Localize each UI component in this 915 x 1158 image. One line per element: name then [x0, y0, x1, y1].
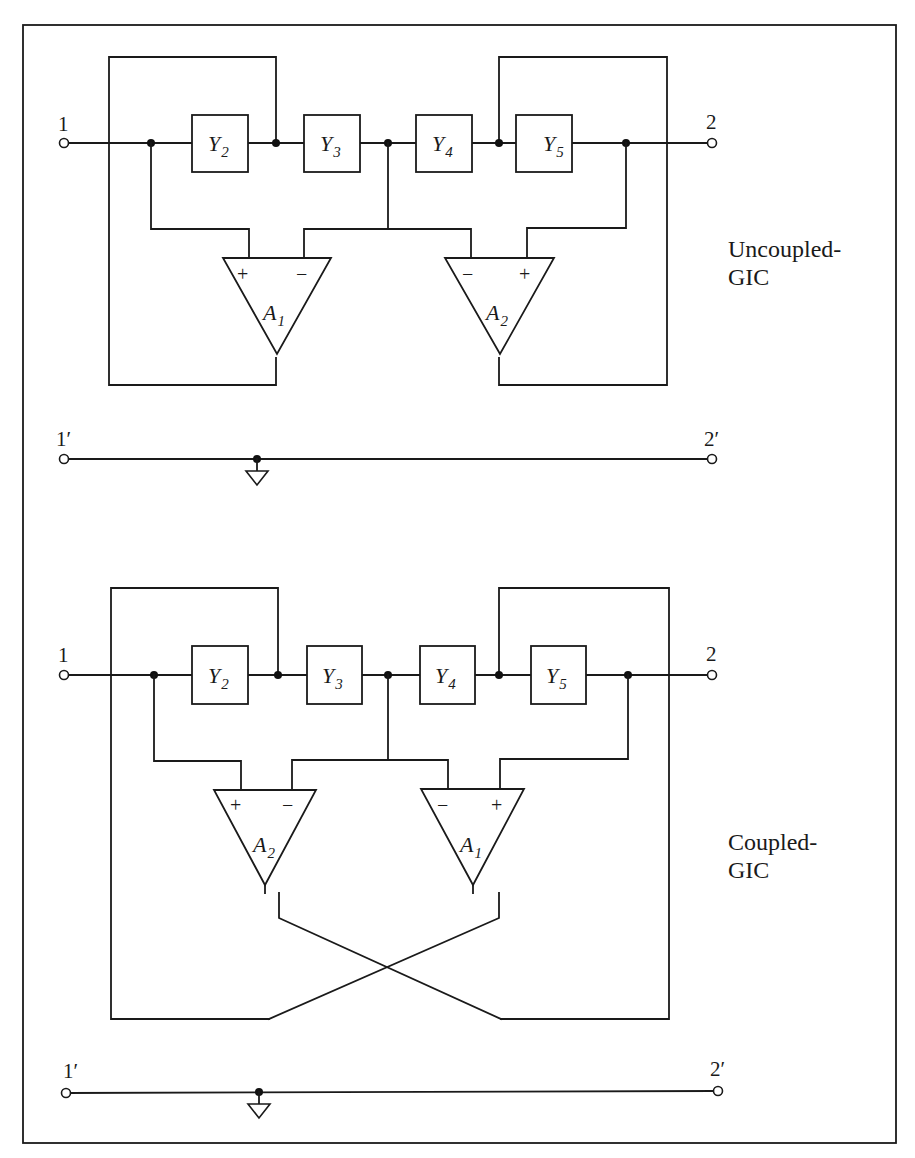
- terminal-1-prime-label: 1′: [63, 1059, 78, 1083]
- svg-text:+: +: [519, 263, 530, 285]
- uncoupled-gic-circuit: Y2 Y3 Y4 Y5 + − A: [56, 57, 847, 485]
- terminal-2-prime: [714, 1087, 723, 1096]
- admittance-y4: Y4: [420, 646, 475, 704]
- ground-icon: [246, 459, 268, 485]
- terminal-2-prime: [708, 455, 717, 464]
- op-amp-a1: + − A1: [223, 258, 331, 354]
- terminal-2-prime-label: 2′: [704, 427, 719, 451]
- admittance-y4: Y4: [416, 115, 472, 172]
- figure-border: [23, 25, 896, 1143]
- terminal-2-label: 2: [706, 110, 717, 134]
- coupled-gic-circuit: Y2 Y3 Y4 Y5 + − A2: [58, 588, 823, 1118]
- junction-dot: [272, 139, 280, 147]
- admittance-y2: Y2: [192, 115, 248, 172]
- terminal-1-prime-label: 1′: [56, 427, 71, 451]
- terminal-2: [708, 139, 717, 148]
- terminal-1: [60, 671, 69, 680]
- admittance-y3: Y3: [307, 646, 362, 704]
- cross-coupling-wire-a1: [269, 893, 499, 1019]
- svg-text:−: −: [437, 794, 448, 816]
- op-amp-a2: − + A2: [445, 258, 554, 354]
- gic-circuit-diagram: Y2 Y3 Y4 Y5 + − A: [0, 0, 915, 1158]
- svg-text:+: +: [230, 794, 241, 816]
- wire: [304, 229, 471, 258]
- terminal-2-prime-label: 2′: [710, 1057, 725, 1081]
- terminal-1-label: 1: [58, 643, 69, 667]
- terminal-1-prime: [60, 455, 69, 464]
- ground-reference-line: [68, 1091, 713, 1093]
- terminal-1-label: 1: [58, 112, 69, 136]
- uncoupled-gic-label: Uncoupled- GIC: [728, 236, 847, 290]
- terminal-1-prime: [62, 1089, 71, 1098]
- wire: [292, 760, 448, 790]
- admittance-y3: Y3: [304, 115, 360, 172]
- ground-icon: [248, 1092, 270, 1118]
- svg-text:+: +: [491, 794, 502, 816]
- terminal-2-label: 2: [706, 642, 717, 666]
- junction-dot: [495, 139, 503, 147]
- feedback-loop-left: [109, 57, 276, 385]
- admittance-y5: Y5: [531, 646, 586, 704]
- terminal-2: [708, 671, 717, 680]
- admittance-y2: Y2: [192, 646, 248, 704]
- junction-dot: [495, 671, 503, 679]
- svg-text:+: +: [237, 263, 248, 285]
- junction-dot: [274, 671, 282, 679]
- op-amp-a1: − + A1: [421, 789, 524, 885]
- svg-text:−: −: [462, 263, 473, 285]
- coupled-gic-label: Coupled- GIC: [728, 829, 823, 883]
- op-amp-a2: + − A2: [214, 790, 316, 885]
- admittance-y5: Y5: [516, 115, 572, 172]
- terminal-1: [60, 139, 69, 148]
- svg-text:−: −: [282, 794, 293, 816]
- svg-text:−: −: [296, 263, 307, 285]
- feedback-loop-right: [499, 57, 667, 385]
